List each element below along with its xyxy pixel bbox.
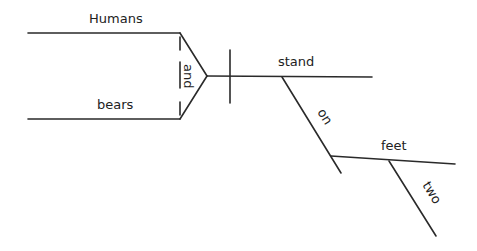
object-line: [331, 156, 455, 164]
sentence-diagram: Humans bears and stand on feet two: [0, 0, 477, 251]
word-humans: Humans: [89, 11, 143, 26]
preposition-line: [282, 77, 341, 173]
word-feet: feet: [381, 138, 407, 153]
word-stand: stand: [278, 54, 314, 69]
predicate-line: [207, 76, 372, 77]
word-two: two: [419, 179, 444, 207]
word-on: on: [314, 106, 335, 128]
word-bears: bears: [97, 97, 134, 112]
word-and: and: [181, 64, 196, 88]
